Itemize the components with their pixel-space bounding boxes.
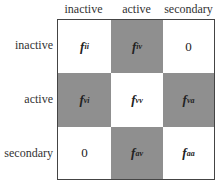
- cell-active-active: fvv: [111, 73, 163, 127]
- cell-inactive-inactive: fii: [58, 20, 111, 73]
- column-header-active: active: [110, 2, 163, 16]
- row-header-inactive: inactive: [0, 38, 53, 52]
- cell-inactive-active: fiv: [111, 20, 163, 73]
- row-header-secondary: secondary: [0, 146, 53, 160]
- cell-secondary-inactive: 0: [58, 127, 111, 179]
- column-header-secondary: secondary: [162, 2, 215, 16]
- column-header-inactive: inactive: [57, 2, 110, 16]
- row-header-active: active: [0, 92, 53, 106]
- cell-secondary-secondary: faa: [163, 127, 214, 179]
- cell-secondary-active: fav: [111, 127, 163, 179]
- cell-active-secondary: fva: [163, 73, 214, 127]
- transition-matrix: fii fiv 0 fvi fvv fva 0 fav faa: [57, 19, 215, 180]
- cell-inactive-secondary: 0: [163, 20, 214, 73]
- cell-active-inactive: fvi: [58, 73, 111, 127]
